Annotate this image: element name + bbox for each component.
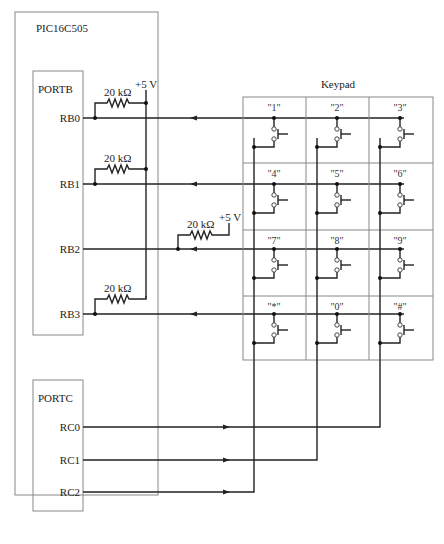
key-label: "5"	[330, 168, 343, 179]
row-arrows	[190, 116, 197, 317]
key-label: "0"	[330, 301, 343, 312]
switch-contact	[272, 268, 276, 272]
vcc-label-2: +5 V	[219, 211, 241, 223]
switch-contact	[272, 333, 276, 337]
switch-contact	[272, 258, 276, 262]
key-label: "2"	[330, 102, 343, 113]
arrow-left-icon	[190, 247, 197, 252]
switch-contact	[335, 268, 339, 272]
switch-contact	[272, 203, 276, 207]
pin-rc1-label: RC1	[60, 454, 80, 466]
resistor-rb3-value: 20 kΩ	[104, 282, 131, 294]
switch-contact	[272, 323, 276, 327]
arrow-right-icon	[223, 490, 230, 495]
switch-contact	[272, 193, 276, 197]
resistor-rb1: 20 kΩ	[93, 152, 148, 186]
switch-contact	[335, 127, 339, 131]
pin-rc0-label: RC0	[60, 421, 81, 433]
switch-contact	[398, 127, 402, 131]
switch-contact	[398, 193, 402, 197]
key-label: "*"	[267, 301, 280, 312]
switch-contact	[398, 333, 402, 337]
resistor-rb2: 20 kΩ +5 V	[176, 211, 241, 251]
key-label: "7"	[267, 235, 280, 246]
arrow-right-icon	[223, 425, 230, 430]
resistor-rb2-value: 20 kΩ	[187, 218, 214, 230]
switch-contact	[398, 137, 402, 141]
switch-contact	[335, 137, 339, 141]
key-label: "8"	[330, 235, 343, 246]
arrow-left-icon	[190, 182, 197, 187]
keypad-key: "9"	[378, 235, 414, 280]
key-label: "9"	[393, 235, 406, 246]
resistor-rb0: 20 kΩ	[93, 86, 148, 120]
resistor-rb0-value: 20 kΩ	[104, 86, 131, 98]
switch-contact	[272, 137, 276, 141]
switch-contact	[398, 203, 402, 207]
keypad-title: Keypad	[321, 78, 356, 90]
keypad-key: "7"	[252, 235, 288, 280]
pin-rb3-label: RB3	[60, 308, 81, 320]
keypad-key: "3"	[378, 102, 414, 149]
arrow-left-icon	[190, 312, 197, 317]
keypad-keys: "1""2""3""4""5""6""7""8""9""*""0""#"	[252, 102, 414, 345]
vcc-label-1: +5 V	[135, 78, 157, 90]
key-label: "6"	[393, 168, 406, 179]
key-label: "3"	[393, 102, 406, 113]
switch-contact	[398, 268, 402, 272]
switch-contact	[398, 258, 402, 262]
portc-label: PORTC	[38, 392, 73, 404]
pin-rb0-label: RB0	[60, 112, 81, 124]
keypad-key: "6"	[378, 168, 414, 215]
keypad-key: "#"	[378, 301, 414, 345]
arrow-left-icon	[190, 116, 197, 121]
switch-contact	[335, 323, 339, 327]
arrow-right-icon	[223, 458, 230, 463]
pin-rb2-label: RB2	[60, 243, 80, 255]
keypad-key: "*"	[252, 301, 288, 345]
key-label: "4"	[267, 168, 280, 179]
switch-contact	[398, 323, 402, 327]
portb-label: PORTB	[38, 83, 73, 95]
switch-contact	[335, 193, 339, 197]
keypad-key: "4"	[252, 168, 288, 215]
key-label: "#"	[393, 301, 406, 312]
switch-contact	[335, 203, 339, 207]
keypad-key: "5"	[315, 168, 351, 215]
circuit-diagram: PIC16C505 PORTB RB0 RB1 RB2 RB3 PORTC RC…	[0, 0, 444, 544]
keypad-key: "1"	[252, 102, 288, 149]
keypad-key: "2"	[315, 102, 351, 149]
keypad-key: "0"	[315, 301, 351, 345]
pin-rb1-label: RB1	[60, 178, 80, 190]
switch-contact	[272, 127, 276, 131]
key-label: "1"	[267, 102, 280, 113]
col0-wire	[83, 138, 254, 492]
portb-box	[33, 71, 83, 335]
pin-rc2-label: RC2	[60, 486, 80, 498]
col1-wire	[83, 138, 317, 460]
resistor-rb1-value: 20 kΩ	[104, 152, 131, 164]
switch-contact	[335, 258, 339, 262]
switch-contact	[335, 333, 339, 337]
chip-label: PIC16C505	[36, 22, 88, 34]
resistor-rb3: 20 kΩ	[93, 282, 146, 316]
keypad-key: "8"	[315, 235, 351, 280]
